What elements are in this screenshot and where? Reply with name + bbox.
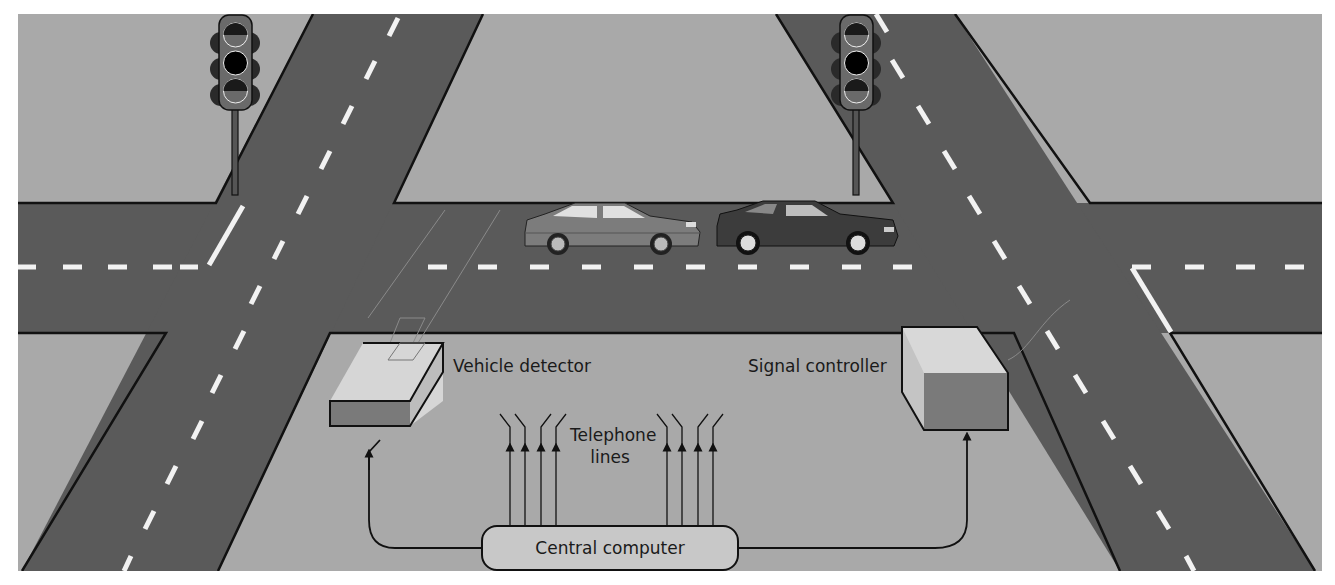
central-computer-box: Central computer [481, 525, 739, 571]
traffic-control-diagram [0, 0, 1335, 585]
signal-controller-label: Signal controller [748, 356, 887, 376]
vehicle-detector-label: Vehicle detector [453, 356, 591, 376]
central-computer-label: Central computer [535, 538, 684, 558]
telephone-lines-label-line1: Telephone [570, 425, 650, 445]
lamp-middle [224, 51, 248, 75]
telephone-lines-label-line2: lines [570, 447, 650, 467]
